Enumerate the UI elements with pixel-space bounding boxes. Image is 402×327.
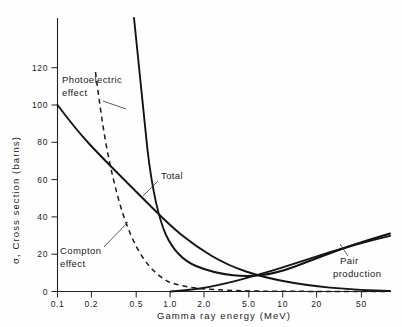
label-photoelectric-line1: Photoelectric xyxy=(62,74,122,85)
x-tick-label-10: 10 xyxy=(277,299,288,309)
curve-total xyxy=(134,18,390,276)
label-compton-line2: effect xyxy=(60,258,85,269)
leader-total xyxy=(143,181,158,196)
x-tick-label-50: 50 xyxy=(356,299,367,309)
leader-compton xyxy=(104,222,128,247)
x-tick-labels-group: 0.1 0.2 0.5 1.0 2.0 5.0 10 20 50 xyxy=(51,299,367,309)
label-total: Total xyxy=(161,170,183,181)
y-ticks-group xyxy=(52,68,58,292)
curves-group xyxy=(58,18,391,292)
figure-container: 0 20 40 60 80 100 120 0.1 0.2 0.5 1.0 2 xyxy=(0,0,402,327)
x-tick-label-1p0: 1.0 xyxy=(163,299,177,309)
x-tick-label-20: 20 xyxy=(311,299,322,309)
leader-photoelectric xyxy=(103,101,126,109)
label-pair-line1: Pair xyxy=(340,255,359,266)
y-tick-label-0: 0 xyxy=(43,287,48,297)
y-tick-label-120: 120 xyxy=(32,63,48,73)
label-pair-line2: production xyxy=(333,268,381,279)
gamma-ray-cross-section-chart: 0 20 40 60 80 100 120 0.1 0.2 0.5 1.0 2 xyxy=(0,0,402,327)
x-tick-label-5p0: 5.0 xyxy=(242,299,256,309)
label-compton-line1: Compton xyxy=(60,245,101,256)
y-tick-label-60: 60 xyxy=(37,175,48,185)
x-tick-label-2p0: 2.0 xyxy=(197,299,211,309)
x-tick-label-0p5: 0.5 xyxy=(129,299,143,309)
label-photoelectric-line2: effect xyxy=(62,87,87,98)
y-axis-title: σ, Cross section (barns) xyxy=(10,136,21,264)
annotation-leaders-group xyxy=(103,101,348,256)
x-ticks-group xyxy=(58,292,362,298)
x-tick-label-0p1: 0.1 xyxy=(51,299,65,309)
y-tick-labels-group: 0 20 40 60 80 100 120 xyxy=(32,63,48,297)
series-labels-group: Photoelectric effect Total Compton effec… xyxy=(60,74,381,279)
y-tick-label-20: 20 xyxy=(37,249,48,259)
y-tick-label-80: 80 xyxy=(37,137,48,147)
y-tick-label-40: 40 xyxy=(37,212,48,222)
y-tick-label-100: 100 xyxy=(32,100,48,110)
x-tick-label-0p2: 0.2 xyxy=(85,299,99,309)
x-axis-title: Gamma ray energy (MeV) xyxy=(157,310,291,321)
